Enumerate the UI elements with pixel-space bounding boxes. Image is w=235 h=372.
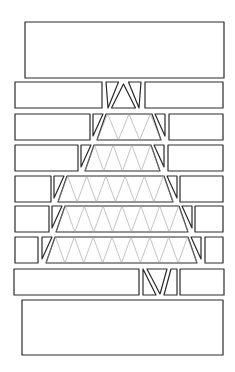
right-block [168,145,223,171]
left-block [15,206,49,232]
right-block [205,237,223,263]
right-block [180,269,224,295]
left-block [15,114,90,140]
pattern-row [15,145,223,171]
pattern-row [15,237,223,263]
lattice-trapezoid [85,145,160,171]
rows [14,82,224,295]
pattern-row [15,176,223,202]
left-block [14,269,139,295]
lattice-trapezoid [46,237,197,263]
left-block [15,145,78,171]
pattern-row [15,206,223,232]
lattice-trapezoid [97,114,161,140]
left-block [15,176,51,202]
right-block [169,114,223,140]
pattern-row [15,82,223,108]
left-block [15,237,38,263]
right-block [180,176,223,202]
left-block [15,82,102,108]
bottom-box [22,300,223,355]
pattern-row [14,269,224,295]
lattice-trapezoid [56,206,188,232]
pattern-row [15,114,223,140]
pattern-diagram [0,0,235,372]
right-block [145,82,223,108]
top-box [25,22,224,78]
right-block [195,206,223,232]
lattice-trapezoid [58,176,173,202]
